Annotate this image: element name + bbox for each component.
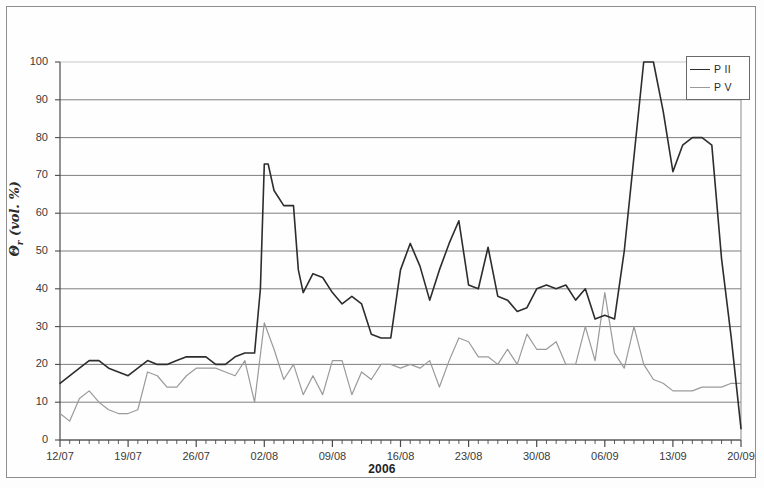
- figure-container: Θr (vol. %) 2006 P II P V 01020304050607…: [0, 0, 764, 488]
- y-tick-label-0: 0: [12, 433, 48, 445]
- legend-item-p-ii: P II: [690, 62, 731, 76]
- y-tick-label-10: 10: [12, 395, 48, 407]
- y-tick-label-20: 20: [12, 357, 48, 369]
- y-tick-label-80: 80: [12, 131, 48, 143]
- legend-item-p-v: P V: [690, 80, 732, 94]
- legend-label-p-ii: P II: [714, 63, 731, 75]
- x-tick-label-09-08: 09/08: [302, 450, 362, 462]
- x-tick-label-16-08: 16/08: [371, 450, 431, 462]
- x-axis-title: 2006: [0, 462, 764, 476]
- legend-swatch-p-ii: [690, 69, 710, 70]
- y-tick-label-100: 100: [12, 55, 48, 67]
- y-tick-label-50: 50: [12, 244, 48, 256]
- y-tick-label-30: 30: [12, 320, 48, 332]
- x-tick-label-19-07: 19/07: [98, 450, 158, 462]
- x-tick-label-02-08: 02/08: [234, 450, 294, 462]
- x-tick-label-30-08: 30/08: [507, 450, 567, 462]
- legend-label-p-v: P V: [714, 81, 732, 93]
- x-tick-label-13-09: 13/09: [643, 450, 703, 462]
- x-tick-label-06-09: 06/09: [575, 450, 635, 462]
- y-tick-label-40: 40: [12, 282, 48, 294]
- x-tick-label-23-08: 23/08: [439, 450, 499, 462]
- x-tick-label-12-07: 12/07: [30, 450, 90, 462]
- y-tick-label-60: 60: [12, 206, 48, 218]
- legend-swatch-p-v: [690, 87, 710, 88]
- line-chart: [0, 0, 764, 488]
- y-tick-label-70: 70: [12, 168, 48, 180]
- y-tick-label-90: 90: [12, 93, 48, 105]
- x-tick-label-20-09: 20/09: [711, 450, 764, 462]
- x-tick-label-26-07: 26/07: [166, 450, 226, 462]
- series-line-p-ii: [60, 62, 741, 429]
- legend: P II P V: [686, 56, 750, 100]
